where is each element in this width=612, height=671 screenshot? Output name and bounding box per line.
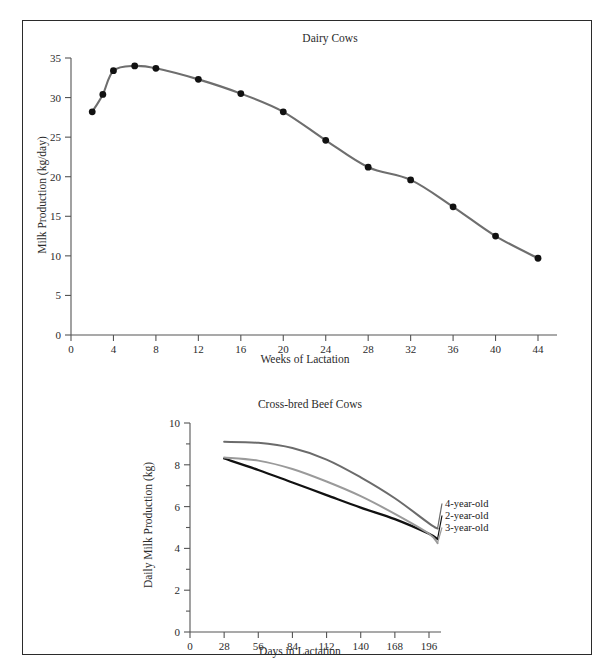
chart2-title: Cross-bred Beef Cows — [258, 398, 363, 410]
chart2-x-tick-label: 0 — [187, 640, 193, 652]
chart2-y-tick-label: 6 — [175, 501, 181, 513]
chart1-data-point — [365, 164, 372, 171]
chart1-x-tick-label: 20 — [278, 343, 290, 355]
chart2-series-line — [224, 442, 437, 529]
chart1-title: Dairy Cows — [302, 32, 358, 45]
chart2-x-tick-label: 196 — [421, 640, 438, 652]
chart1-x-tick-label: 16 — [235, 343, 247, 355]
chart2-x-tick-label: 112 — [319, 640, 335, 652]
chart2-y-ticks: 0246810 — [169, 417, 190, 638]
chart2-series-lines — [224, 442, 442, 543]
chart1-data-point — [153, 65, 160, 72]
chart1-data-points — [89, 63, 542, 262]
chart2-y-tick-label: 10 — [169, 417, 181, 429]
chart1-data-point — [450, 203, 457, 210]
chart1-data-line — [92, 66, 538, 258]
chart1-data-point — [99, 91, 106, 98]
chart1-data-point — [237, 90, 244, 97]
chart2-series-label: 4-year-old — [445, 498, 489, 509]
chart1-y-tick-label: 20 — [50, 171, 62, 183]
chart1-x-ticks: 048121620242832364044 — [68, 335, 544, 355]
chart1-y-tick-label: 30 — [50, 92, 62, 104]
chart2-y-axis-label: Daily Milk Production (kg) — [142, 462, 155, 588]
chart1-data-point — [89, 108, 96, 115]
chart-dairy-cows: Dairy Cows Milk Production (kg/day) Week… — [36, 32, 557, 365]
chart2-x-tick-label: 28 — [219, 640, 231, 652]
chart1-data-point — [280, 108, 287, 115]
chart1-x-axis-label: Weeks of Lactation — [260, 353, 349, 365]
figure-canvas: Dairy Cows Milk Production (kg/day) Week… — [0, 0, 612, 671]
chart1-y-tick-label: 25 — [50, 131, 62, 143]
chart2-series-line — [224, 459, 437, 539]
figure-page: Dairy Cows Milk Production (kg/day) Week… — [0, 0, 612, 671]
chart1-data-point — [195, 76, 202, 83]
chart2-y-tick-label: 2 — [175, 584, 181, 596]
chart1-y-tick-label: 0 — [56, 329, 62, 341]
chart1-x-tick-label: 28 — [363, 343, 375, 355]
chart1-y-axis-label: Milk Production (kg/day) — [36, 136, 49, 254]
chart1-x-tick-label: 4 — [111, 343, 117, 355]
chart2-x-tick-label: 84 — [287, 640, 299, 652]
chart1-x-tick-label: 12 — [193, 343, 204, 355]
chart2-series-label: 3-year-old — [445, 522, 489, 533]
chart1-x-tick-label: 36 — [448, 343, 460, 355]
chart2-x-tick-label: 140 — [352, 640, 369, 652]
chart2-y-tick-label: 8 — [175, 459, 181, 471]
chart1-y-tick-label: 15 — [50, 210, 62, 222]
chart1-x-tick-label: 24 — [320, 343, 332, 355]
chart1-x-tick-label: 40 — [490, 343, 502, 355]
chart1-data-point — [407, 176, 414, 183]
chart1-x-tick-label: 44 — [533, 343, 545, 355]
chart1-data-point — [110, 67, 117, 74]
chart1-data-point — [535, 255, 542, 262]
chart2-x-tick-label: 168 — [387, 640, 404, 652]
chart1-y-ticks: 05101520253035 — [50, 52, 71, 341]
chart1-y-tick-label: 10 — [50, 250, 62, 262]
chart2-x-tick-label: 56 — [253, 640, 265, 652]
chart2-series-labels: 4-year-old2-year-old3-year-old — [445, 498, 489, 533]
chart1-data-point — [322, 137, 329, 144]
chart1-x-tick-label: 0 — [68, 343, 74, 355]
chart2-series-label: 2-year-old — [445, 510, 489, 521]
chart1-y-tick-label: 35 — [50, 52, 62, 64]
chart1-data-point — [131, 63, 138, 70]
chart2-y-tick-label: 0 — [175, 626, 181, 638]
chart1-y-tick-label: 5 — [56, 289, 62, 301]
chart1-x-tick-label: 32 — [405, 343, 416, 355]
chart2-y-tick-label: 4 — [175, 542, 181, 554]
chart1-x-tick-label: 8 — [153, 343, 159, 355]
chart-cross-bred-beef-cows: Cross-bred Beef Cows Daily Milk Producti… — [142, 398, 489, 658]
chart1-data-point — [492, 233, 499, 240]
